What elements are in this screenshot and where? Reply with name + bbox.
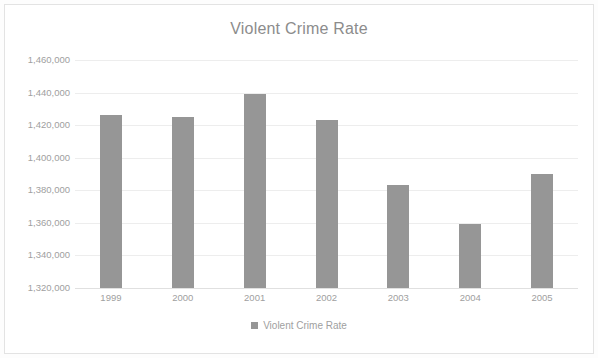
- gridline: [75, 93, 578, 94]
- y-axis-tick-label: 1,360,000: [6, 218, 70, 228]
- plot-area: [75, 60, 578, 288]
- x-axis-tick-label: 1999: [81, 292, 141, 304]
- x-axis-tick-label: 2001: [225, 292, 285, 304]
- x-axis-tick-label: 2005: [512, 292, 572, 304]
- chart-legend: Violent Crime Rate: [0, 320, 598, 331]
- bar: [244, 94, 266, 288]
- gridline: [75, 60, 578, 61]
- y-axis-tick-label: 1,320,000: [6, 283, 70, 293]
- x-axis-tick-label: 2003: [368, 292, 428, 304]
- y-axis-tick-label: 1,440,000: [6, 88, 70, 98]
- bar: [172, 117, 194, 288]
- x-axis-line: [75, 288, 578, 289]
- bar: [459, 224, 481, 288]
- x-axis-tick-label: 2002: [297, 292, 357, 304]
- chart-title: Violent Crime Rate: [0, 20, 598, 38]
- bar: [100, 115, 122, 288]
- y-axis-tick-label: 1,420,000: [6, 120, 70, 130]
- y-axis-tick-label: 1,400,000: [6, 153, 70, 163]
- x-axis-tick-label: 2004: [440, 292, 500, 304]
- y-axis-tick-label: 1,340,000: [6, 250, 70, 260]
- chart-screenshot: Violent Crime Rate 1,460,0001,440,0001,4…: [0, 0, 598, 358]
- x-axis-labels: 1999200020012002200320042005: [75, 292, 578, 308]
- legend-label: Violent Crime Rate: [263, 320, 347, 331]
- x-axis-tick-label: 2000: [153, 292, 213, 304]
- bar: [316, 120, 338, 288]
- y-axis-tick-label: 1,380,000: [6, 185, 70, 195]
- bar: [531, 174, 553, 288]
- bar: [387, 185, 409, 288]
- y-axis-labels: 1,460,0001,440,0001,420,0001,400,0001,38…: [4, 0, 70, 358]
- legend-swatch-icon: [251, 322, 258, 329]
- y-axis-tick-label: 1,460,000: [6, 55, 70, 65]
